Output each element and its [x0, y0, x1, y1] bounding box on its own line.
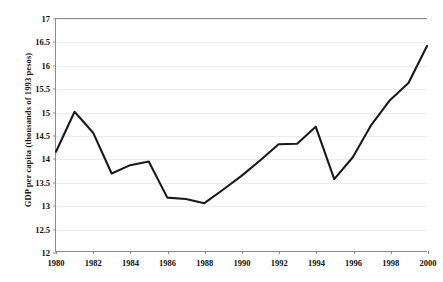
plot-area: 1212.51313.51414.51515.51616.517 1980198… — [55, 18, 427, 252]
x-tick-label: 2000 — [420, 258, 437, 268]
y-axis-title: GDP per capita (thousands of 1993 pesos) — [23, 25, 33, 235]
y-tick-label: 14 — [42, 154, 51, 164]
x-tick-label: 1992 — [271, 258, 288, 268]
x-tick-mark — [93, 251, 94, 254]
x-tick-mark — [168, 251, 169, 254]
y-tick-label: 15 — [42, 108, 51, 118]
x-tick-label: 1994 — [308, 258, 325, 268]
x-tick-mark — [391, 251, 392, 254]
x-tick-label: 1988 — [196, 258, 213, 268]
y-tick-label: 16.5 — [35, 37, 50, 47]
x-tick-mark — [316, 251, 317, 254]
x-tick-mark — [428, 251, 429, 254]
y-tick-label: 14.5 — [35, 131, 50, 141]
y-tick-label: 13 — [42, 201, 51, 211]
x-tick-label: 1984 — [122, 258, 139, 268]
x-tick-label: 1990 — [234, 258, 251, 268]
y-tick-label: 15.5 — [35, 84, 50, 94]
y-tick-label: 17 — [42, 14, 51, 24]
x-tick-mark — [242, 251, 243, 254]
x-tick-label: 1998 — [382, 258, 399, 268]
chart-container: GDP per capita (thousands of 1993 pesos)… — [0, 0, 443, 282]
x-tick-label: 1996 — [345, 258, 362, 268]
x-tick-mark — [56, 251, 57, 254]
x-tick-label: 1982 — [85, 258, 102, 268]
y-tick-label: 16 — [42, 61, 51, 71]
x-tick-mark — [354, 251, 355, 254]
y-tick-label: 12.5 — [35, 225, 50, 235]
x-tick-label: 1986 — [159, 258, 176, 268]
x-tick-label: 1980 — [48, 258, 65, 268]
y-tick-label: 13.5 — [35, 178, 50, 188]
data-series-group — [56, 19, 427, 251]
x-tick-mark — [205, 251, 206, 254]
series-line — [56, 46, 427, 203]
x-tick-mark — [130, 251, 131, 254]
x-tick-mark — [279, 251, 280, 254]
y-tick-label: 12 — [42, 248, 51, 258]
